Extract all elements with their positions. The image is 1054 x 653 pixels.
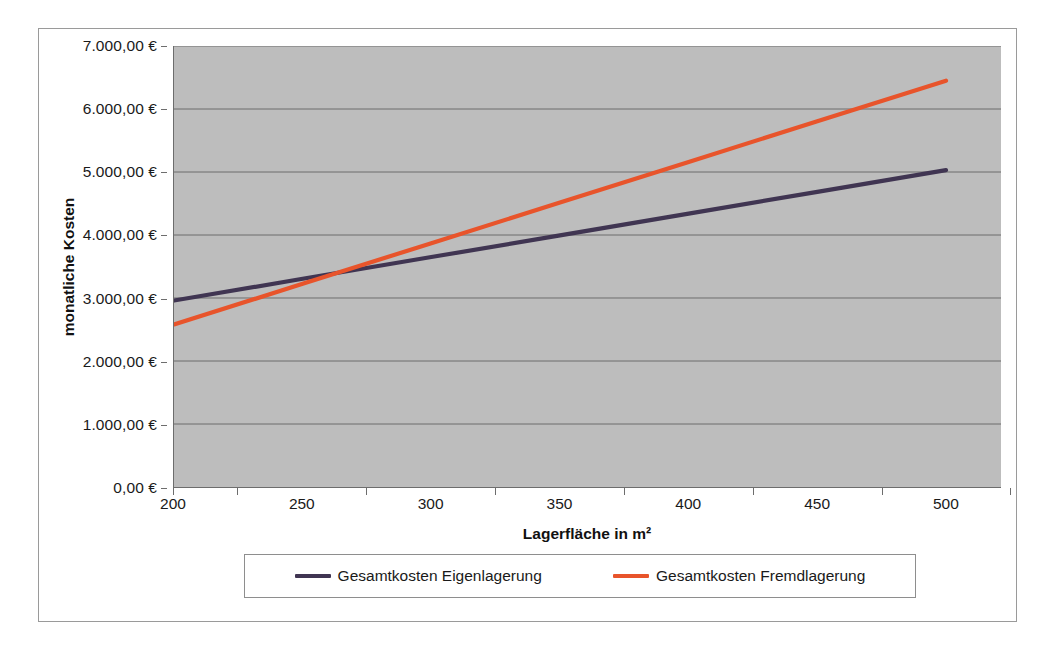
x-tick-label: 450 xyxy=(804,495,830,513)
y-tick-label: 5.000,00 € xyxy=(83,163,167,181)
y-tick-label: 3.000,00 € xyxy=(83,290,167,308)
y-tick-label: 1.000,00 € xyxy=(83,416,167,434)
x-tick-label: 500 xyxy=(933,495,959,513)
y-tick-mark xyxy=(161,488,167,489)
legend-line-swatch-icon xyxy=(295,574,331,578)
y-tick-mark xyxy=(161,425,167,426)
x-axis-title: Lagerfläche in m² xyxy=(173,525,1001,543)
x-tick-label: 250 xyxy=(289,495,315,513)
legend-label: Gesamtkosten Eigenlagerung xyxy=(338,567,542,585)
y-tick-mark xyxy=(161,172,167,173)
y-tick-mark xyxy=(161,299,167,300)
legend-label: Gesamtkosten Fremdlagerung xyxy=(656,567,865,585)
y-tick-mark xyxy=(161,109,167,110)
y-tick-mark xyxy=(161,362,167,363)
x-tick-label: 400 xyxy=(675,495,701,513)
plot-canvas xyxy=(174,46,1001,487)
y-tick-label: 7.000,00 € xyxy=(83,37,167,55)
x-tick-mark xyxy=(173,488,174,495)
x-tick-label: 300 xyxy=(418,495,444,513)
x-tick-label: 350 xyxy=(547,495,573,513)
legend-item[interactable]: Gesamtkosten Eigenlagerung xyxy=(295,567,542,585)
x-tick-mark xyxy=(495,488,496,495)
y-tick-label: 6.000,00 € xyxy=(83,100,167,118)
x-tick-mark xyxy=(237,488,238,495)
x-tick-mark xyxy=(1010,488,1011,495)
legend-line-swatch-icon xyxy=(613,574,649,578)
y-tick-mark xyxy=(161,46,167,47)
x-tick-mark xyxy=(366,488,367,495)
plot-area xyxy=(173,46,1001,488)
y-axis-tick-labels: 0,00 €1.000,00 €2.000,00 €3.000,00 €4.00… xyxy=(39,46,167,488)
x-axis-tick-labels: 200250300350400450500 xyxy=(173,495,1001,519)
series-line-2 xyxy=(174,81,946,325)
x-tick-mark xyxy=(882,488,883,495)
legend-item[interactable]: Gesamtkosten Fremdlagerung xyxy=(613,567,865,585)
chart-frame: monatliche Kosten 0,00 €1.000,00 €2.000,… xyxy=(38,28,1017,622)
y-tick-label: 0,00 € xyxy=(113,479,167,497)
y-tick-label: 2.000,00 € xyxy=(83,353,167,371)
chart-legend: Gesamtkosten EigenlagerungGesamtkosten F… xyxy=(244,554,916,598)
y-tick-label: 4.000,00 € xyxy=(83,226,167,244)
y-tick-mark xyxy=(161,235,167,236)
x-tick-mark xyxy=(624,488,625,495)
x-tick-label: 200 xyxy=(160,495,186,513)
x-tick-mark xyxy=(753,488,754,495)
